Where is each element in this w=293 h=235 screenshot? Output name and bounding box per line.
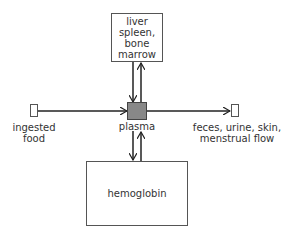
organs-box: liver spleen, bone marrow [111, 13, 163, 62]
iron-flow-diagram: liver spleen, bone marrow plasma ingeste… [0, 0, 293, 235]
ingested-food-label: ingested food [4, 122, 64, 144]
organs-label: liver spleen, bone marrow [112, 14, 162, 61]
excretion-label: feces, urine, skin, menstrual flow [184, 122, 290, 144]
ingested-food-box [30, 104, 38, 117]
plasma-box [127, 102, 147, 120]
hemoglobin-label: hemoglobin [87, 162, 187, 225]
excretion-box [231, 104, 239, 117]
plasma-label: plasma [112, 121, 162, 132]
hemoglobin-box: hemoglobin [86, 161, 188, 226]
